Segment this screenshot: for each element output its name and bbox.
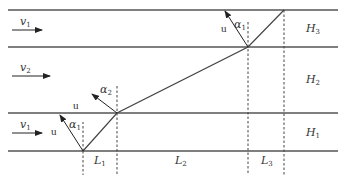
- velocity-label-3: u: [221, 23, 227, 34]
- dashed-verticals: [83, 10, 284, 175]
- flow-label-h2: v2: [20, 62, 31, 75]
- angle-label-alpha1-top: α1: [234, 19, 246, 32]
- distance-label-l2: L2: [175, 155, 187, 168]
- angle-label-alpha2: α2: [100, 84, 112, 97]
- layer-label-h3: H3: [306, 23, 320, 36]
- trajectory-path: [83, 10, 284, 151]
- flow-arrows: [12, 30, 50, 133]
- layer-label-h1: H1: [306, 127, 320, 140]
- layer-boundaries: [8, 10, 338, 151]
- velocity-label-2: u: [73, 100, 79, 111]
- angle-label-alpha1-bottom: α1: [69, 119, 81, 132]
- diagram-canvas: v1 v2 v1 H3 H2 H1 L1 L2 L3 u u u α1 α2 α…: [0, 0, 345, 186]
- distance-label-l1: L1: [94, 155, 106, 168]
- distance-label-l3: L3: [261, 155, 273, 168]
- diagram-svg: [0, 0, 345, 186]
- flow-label-h3: v1: [20, 16, 31, 29]
- velocity-vectors: [60, 11, 248, 151]
- velocity-label-1: u: [51, 126, 57, 137]
- flow-label-h1: v1: [20, 119, 31, 132]
- layer-label-h2: H2: [306, 74, 320, 87]
